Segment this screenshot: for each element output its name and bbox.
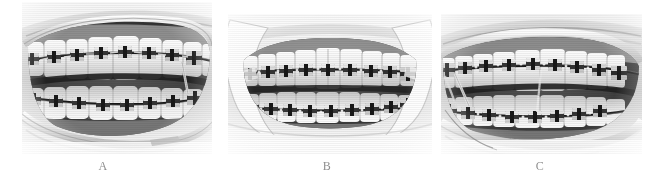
figure-panel-c (441, 14, 642, 154)
figure-panel-a (22, 2, 212, 154)
intraoral-photo-frontal (228, 14, 432, 154)
panel-caption-c: C (520, 160, 560, 172)
figure-container: A B C (0, 0, 659, 181)
intraoral-photo-left-lateral (22, 2, 212, 154)
panel-caption-b: B (307, 160, 347, 172)
figure-panel-b (228, 14, 432, 154)
panel-caption-a: A (83, 160, 123, 172)
intraoral-photo-right-lateral (441, 14, 642, 154)
